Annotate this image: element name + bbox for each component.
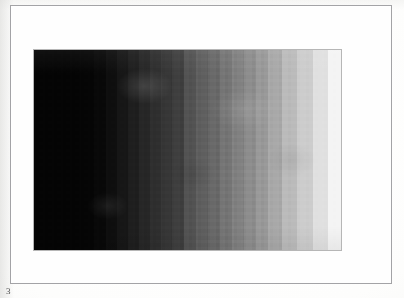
wedge-band xyxy=(244,50,256,250)
page-number: 3 xyxy=(6,286,11,297)
wedge-band xyxy=(282,50,297,250)
wedge-band xyxy=(117,50,128,250)
wedge-band xyxy=(256,50,269,250)
wedge-band xyxy=(139,50,150,250)
wedge-band xyxy=(106,50,118,250)
wedge-band xyxy=(128,50,139,250)
wedge-band xyxy=(172,50,184,250)
wedge-band xyxy=(80,50,94,250)
wedge-band xyxy=(268,50,282,250)
wedge-band xyxy=(34,50,80,250)
wedge-band xyxy=(208,50,220,250)
wedge-band xyxy=(313,50,328,250)
step-wedge-bands xyxy=(34,50,341,250)
wedge-band xyxy=(232,50,244,250)
wedge-band xyxy=(94,50,106,250)
page-border-frame xyxy=(10,5,392,284)
grayscale-step-wedge-figure xyxy=(33,49,342,251)
wedge-band xyxy=(328,50,341,250)
wedge-band xyxy=(220,50,232,250)
wedge-band xyxy=(161,50,172,250)
wedge-band xyxy=(196,50,208,250)
wedge-band xyxy=(150,50,161,250)
scanned-page: 3 xyxy=(0,0,404,298)
wedge-band xyxy=(184,50,196,250)
wedge-band xyxy=(297,50,313,250)
